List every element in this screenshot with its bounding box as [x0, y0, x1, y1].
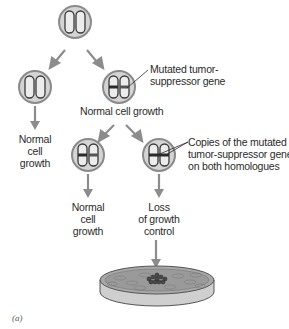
- label-line: cell: [15, 145, 55, 157]
- arrow-left-down: [30, 106, 40, 130]
- arrow-bottom-left-down: [83, 174, 93, 198]
- annotation-line: suppressor gene: [150, 75, 225, 87]
- cell-bottom-right-mutated-both: [143, 139, 175, 171]
- annotation-line: Copies of the mutated: [188, 136, 289, 148]
- label-right-cell-status: Normal cell growth: [80, 105, 163, 117]
- label-line: growth: [15, 157, 55, 169]
- arrow-bottom-right-down: [154, 174, 164, 198]
- arrow-right-bottom-left: [99, 125, 114, 141]
- cell-bottom-left: [72, 139, 104, 171]
- culture-dish: [100, 266, 214, 306]
- cell-right-mutated-one: [103, 71, 135, 103]
- arrow-right-bottom-right: [126, 125, 142, 141]
- arrow-top-left: [50, 50, 65, 68]
- label-line: of growth: [134, 213, 184, 225]
- label-line: Normal: [15, 133, 55, 145]
- arrow-to-dish: [151, 240, 161, 268]
- arrow-top-right: [87, 50, 103, 68]
- label-line: Loss: [134, 201, 184, 213]
- annotation-line: tumor-suppressor gene: [188, 148, 289, 160]
- figure-caption: (a): [12, 313, 23, 323]
- label-line: growth: [68, 225, 108, 237]
- label-bottom-left-outcome: Normal cell growth: [68, 201, 108, 237]
- annotation-line: on both homologues: [188, 160, 289, 172]
- annotation-mutated-gene: Mutated tumor- suppressor gene: [150, 63, 225, 87]
- cell-left: [19, 71, 51, 103]
- label-line: cell: [68, 213, 108, 225]
- annotation-line: Mutated tumor-: [150, 63, 225, 75]
- label-line: Normal: [68, 201, 108, 213]
- annotation-both-copies: Copies of the mutated tumor-suppressor g…: [188, 136, 289, 172]
- label-left-outcome: Normal cell growth: [15, 133, 55, 169]
- cell-top: [59, 6, 91, 38]
- label-bottom-right-outcome: Loss of growth control: [134, 201, 184, 237]
- label-line: control: [134, 225, 184, 237]
